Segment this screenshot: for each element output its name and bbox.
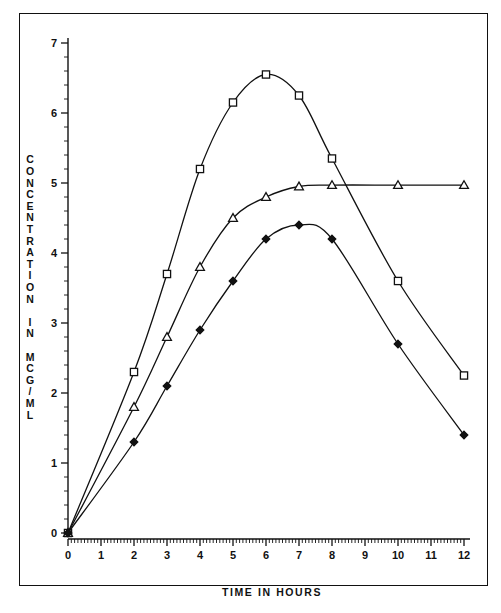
y-axis-title-char: E <box>26 200 33 212</box>
y-axis-title: CONCENTRATIONINMCG/ML <box>26 153 35 420</box>
marker-square <box>460 372 467 379</box>
marker-diamond <box>130 438 138 446</box>
concentration-time-line-chart: 01234567 0123456789101112 CONCENTRATIONI… <box>0 0 501 613</box>
x-tick-label: 3 <box>164 549 170 561</box>
marker-triangle <box>262 193 271 201</box>
marker-square <box>394 277 401 284</box>
y-axis-title-char: N <box>26 293 34 305</box>
marker-diamond <box>163 382 171 390</box>
y-axis-title-char: C <box>26 362 34 374</box>
y-axis-title-char: N <box>26 327 34 339</box>
marker-triangle <box>196 263 205 271</box>
y-axis-title-char: O <box>26 165 34 177</box>
y-axis-title-char: L <box>27 409 34 421</box>
y-axis-title-char: T <box>27 258 34 270</box>
y-axis-title-char: M <box>26 397 35 409</box>
y-axis-title-char: N <box>26 177 34 189</box>
y-axis-title-char: C <box>26 188 34 200</box>
marker-square <box>262 71 269 78</box>
figure-root: 01234567 0123456789101112 CONCENTRATIONI… <box>0 0 501 613</box>
x-axis: 0123456789101112 <box>65 539 470 561</box>
y-tick-label: 0 <box>51 527 57 539</box>
y-tick-label: 4 <box>51 247 58 259</box>
data-series-group <box>64 71 469 537</box>
x-tick-label: 10 <box>392 549 404 561</box>
x-tick-label: 4 <box>197 549 204 561</box>
y-axis-title-char: I <box>29 316 32 328</box>
series-filled-diamond <box>64 221 468 537</box>
marker-square <box>196 165 203 172</box>
marker-triangle <box>130 403 139 411</box>
x-tick-label: 1 <box>98 549 104 561</box>
marker-square <box>328 155 335 162</box>
y-axis-title-char: A <box>26 246 34 258</box>
y-tick-label: 6 <box>51 107 57 119</box>
y-axis-title-char: N <box>26 211 34 223</box>
x-tick-label: 12 <box>458 549 470 561</box>
x-axis-title: TIME IN HOURS <box>222 586 322 598</box>
x-tick-label: 11 <box>425 549 437 561</box>
y-tick-label: 3 <box>51 317 57 329</box>
y-axis-title-char: / <box>29 385 32 397</box>
y-axis-title-char: O <box>26 281 34 293</box>
y-tick-label: 7 <box>51 37 57 49</box>
marker-square <box>163 270 170 277</box>
x-tick-label: 8 <box>329 549 335 561</box>
y-tick-label: 2 <box>51 387 57 399</box>
y-axis-title-char: C <box>26 153 34 165</box>
y-axis-title-char: I <box>29 269 32 281</box>
y-axis-title-char: T <box>27 223 34 235</box>
series-line-series-square <box>68 74 464 533</box>
x-tick-label: 9 <box>362 549 368 561</box>
y-tick-label: 1 <box>51 457 57 469</box>
marker-triangle <box>163 333 172 341</box>
marker-diamond <box>295 221 303 229</box>
marker-square <box>229 99 236 106</box>
series-open-square <box>64 71 467 537</box>
y-axis-title-char: R <box>26 235 34 247</box>
series-line-series-diamond <box>68 224 464 533</box>
marker-diamond <box>394 340 402 348</box>
y-axis: 01234567 <box>51 37 68 539</box>
x-tick-label: 5 <box>230 549 236 561</box>
marker-diamond <box>196 326 204 334</box>
x-tick-label: 0 <box>65 549 71 561</box>
x-tick-label: 2 <box>131 549 137 561</box>
x-tick-label: 6 <box>263 549 269 561</box>
marker-square <box>295 92 302 99</box>
y-axis-title-char: M <box>26 351 35 363</box>
y-axis-title-char: G <box>26 374 34 386</box>
marker-square <box>130 368 137 375</box>
y-tick-label: 5 <box>51 177 57 189</box>
x-tick-label: 7 <box>296 549 302 561</box>
